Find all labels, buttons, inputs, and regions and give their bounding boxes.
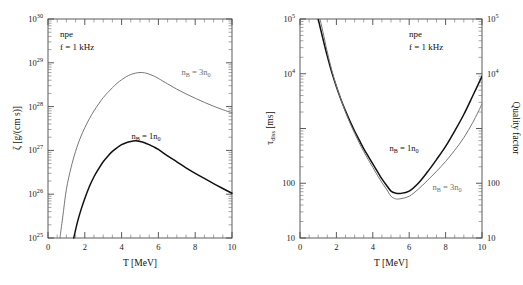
right-curve-label-1n0: nB = 1n0 — [389, 143, 418, 154]
right-yaxis-left-tick-labels: 10 100 104 105 — [282, 12, 295, 243]
svg-text:10: 10 — [287, 233, 296, 243]
svg-text:1029: 1029 — [28, 56, 43, 68]
right-annot-matter: npe — [409, 29, 422, 39]
curve-nb-1n0-left — [74, 141, 232, 238]
svg-text:1026: 1026 — [28, 187, 43, 199]
left-xtick-4: 8 — [193, 242, 197, 252]
left-curve-label-1n0: nB = 1n0 — [131, 131, 160, 142]
chart-panel-right: 10 100 104 105 10 100 104 105 0 2 4 6 8 … — [261, 0, 523, 285]
right-xtick-3: 6 — [407, 242, 411, 252]
right-xaxis-tick-labels: 0 2 4 6 8 10 — [298, 242, 486, 252]
chart-panel-left: 1025 1026 1027 1028 1029 1030 0 2 4 6 8 … — [0, 0, 262, 285]
svg-text:10: 10 — [487, 233, 496, 243]
right-xtick-2: 4 — [371, 242, 376, 252]
left-curve-label-3n0: nB = 3n0 — [181, 67, 210, 78]
left-xtick-1: 2 — [83, 242, 87, 252]
svg-text:100: 100 — [487, 178, 500, 188]
left-xtick-5: 10 — [228, 242, 237, 252]
svg-text:1028: 1028 — [28, 100, 43, 112]
left-xtick-3: 6 — [156, 242, 160, 252]
svg-text:104: 104 — [487, 67, 499, 79]
right-yaxis-left-title: τdiss [ms] — [265, 111, 276, 144]
right-xtick-4: 8 — [443, 242, 447, 252]
svg-text:105: 105 — [487, 12, 499, 24]
right-yaxis-right-tick-labels: 10 100 104 105 — [487, 12, 500, 243]
right-yaxis-right-title: Quality factor — [511, 101, 521, 155]
svg-text:1030: 1030 — [28, 12, 43, 24]
curve-nb-3n0-right — [320, 19, 482, 199]
left-yaxis-tick-labels: 1025 1026 1027 1028 1029 1030 — [28, 12, 43, 243]
svg-text:100: 100 — [282, 178, 295, 188]
svg-text:104: 104 — [283, 67, 295, 79]
right-curve-label-3n0: nB = 3n0 — [432, 182, 461, 193]
left-xaxis-title: T [MeV] — [123, 258, 157, 268]
left-annot-matter: npe — [60, 29, 73, 39]
curve-nb-3n0-left — [60, 73, 232, 238]
left-plot-svg: 1025 1026 1027 1028 1029 1030 0 2 4 6 8 … — [0, 0, 262, 285]
right-xaxis-title: T [MeV] — [374, 258, 408, 268]
left-xtick-2: 4 — [119, 242, 124, 252]
right-xtick-0: 0 — [298, 242, 302, 252]
right-xaxis-minor-ticks — [309, 19, 473, 238]
right-xtick-5: 10 — [478, 242, 487, 252]
left-annot-frequency: f = 1 kHz — [60, 42, 94, 52]
left-xaxis-tick-labels: 0 2 4 6 8 10 — [46, 242, 236, 252]
svg-text:105: 105 — [283, 12, 295, 24]
left-yaxis-title: ζ [g/(cm s)] — [12, 106, 23, 150]
curve-nb-1n0-right — [318, 19, 482, 194]
figure-container: 1025 1026 1027 1028 1029 1030 0 2 4 6 8 … — [0, 0, 523, 285]
left-xtick-0: 0 — [46, 242, 50, 252]
right-annot-frequency: f = 1 kHz — [409, 42, 443, 52]
svg-text:1025: 1025 — [28, 231, 43, 243]
svg-text:1027: 1027 — [28, 143, 43, 155]
right-plot-svg: 10 100 104 105 10 100 104 105 0 2 4 6 8 … — [261, 0, 523, 285]
right-xtick-1: 2 — [334, 242, 338, 252]
